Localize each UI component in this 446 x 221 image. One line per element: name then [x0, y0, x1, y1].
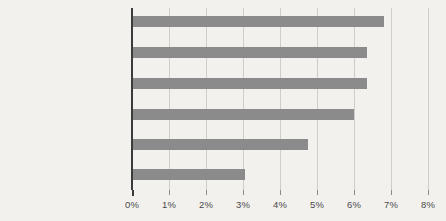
xtick-7: [391, 190, 392, 195]
xticklabel-0: 0%: [125, 199, 139, 210]
xtick-3: [243, 190, 244, 195]
gridline-2pct: [206, 8, 207, 190]
xticklabel-4: 4%: [273, 199, 287, 210]
gridline-8pct: [428, 8, 429, 190]
gridline-6pct: [354, 8, 355, 190]
xticklabel-5: 5%: [310, 199, 324, 210]
gridline-7pct: [391, 8, 392, 190]
xticklabel-3: 3%: [236, 199, 250, 210]
xtick-2: [206, 190, 207, 195]
bar-grandes-metropoles-suburbios-maior-densidade: [132, 47, 367, 58]
xticklabel-1: 1%: [162, 199, 176, 210]
xtick-4: [280, 190, 281, 195]
xticklabel-2: 2%: [199, 199, 213, 210]
bar-grandes-metropoles-suburbios-baixa-densidade: [132, 78, 367, 89]
gridline-1pct: [169, 8, 170, 190]
bar-pequenas-metropoles: [132, 139, 308, 150]
xtick-0: [132, 190, 134, 196]
xtick-8: [428, 190, 429, 195]
xticklabel-6: 6%: [347, 199, 361, 210]
bar-chart-figure: Grandes metrópoles:condados urbanos Gran…: [0, 0, 446, 221]
xticklabel-7: 7%: [384, 199, 398, 210]
bar-areas-nao-metropolitanas: [132, 169, 245, 180]
bar-grandes-metropoles-condados-urbanos: [132, 16, 384, 27]
xtick-5: [317, 190, 318, 195]
gridline-5pct: [317, 8, 318, 190]
xtick-6: [354, 190, 355, 195]
plot-area: Grandes metrópoles:condados urbanos Gran…: [132, 8, 428, 190]
xtick-1: [169, 190, 170, 195]
gridline-4pct: [280, 8, 281, 190]
gridline-3pct: [243, 8, 244, 190]
bar-metropoles-medianas: [132, 109, 354, 120]
xticklabel-8: 8%: [421, 199, 435, 210]
y-axis-line: [131, 8, 133, 190]
